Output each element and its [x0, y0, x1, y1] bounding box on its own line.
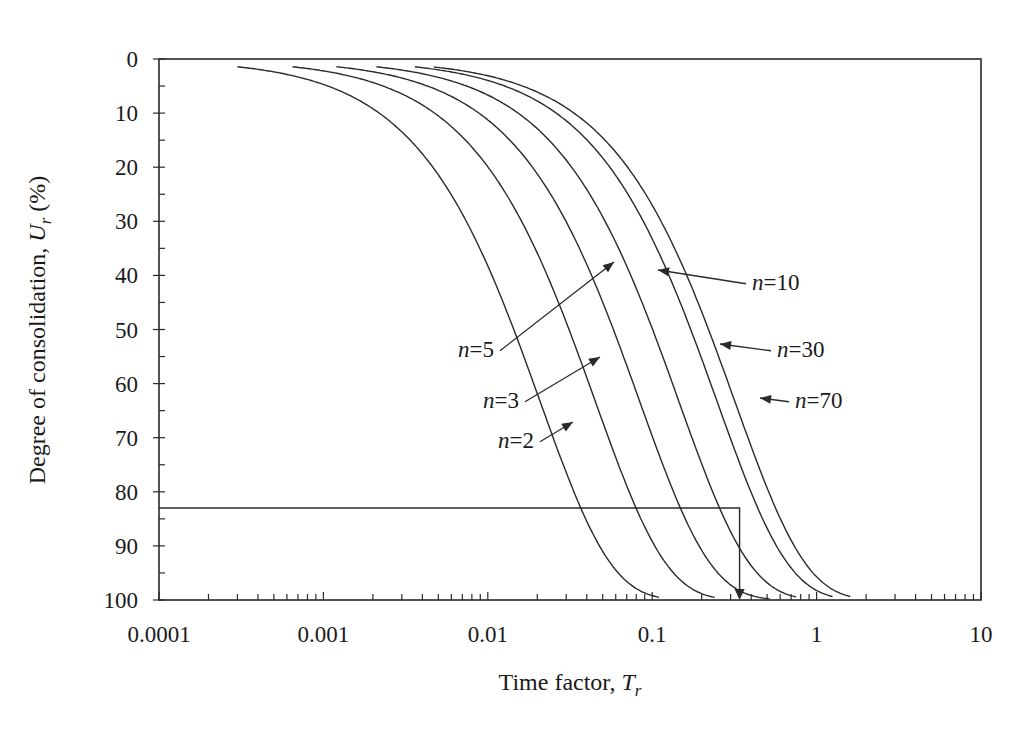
- arrow-head-icon: [760, 395, 771, 404]
- x-tick-label: 0.1: [638, 622, 667, 647]
- series-label: n=70: [795, 388, 842, 413]
- x-axis-title: Time factor, Tr: [499, 669, 642, 700]
- y-tick-label: 0: [127, 47, 139, 72]
- y-tick-label: 70: [115, 426, 138, 451]
- consolidation-chart: n=10n=5n=30n=3n=70n=2 010203040506070809…: [0, 0, 1034, 730]
- curve-n-5: [336, 67, 770, 599]
- arrow-head-icon: [720, 341, 731, 350]
- annotation-arrow-line: [500, 262, 614, 351]
- x-tick-label: 0.0001: [127, 622, 190, 647]
- curve-n-10: [376, 67, 796, 597]
- axis-ticks: [153, 59, 981, 600]
- guide-line: [159, 508, 740, 591]
- y-tick-label: 20: [115, 155, 138, 180]
- series-label: n=5: [458, 337, 494, 362]
- arrow-head-icon: [603, 262, 614, 272]
- arrow-head-icon: [658, 267, 670, 276]
- x-tick-label: 0.01: [468, 622, 508, 647]
- annotation-arrow-line: [525, 357, 600, 402]
- curve-n-30: [415, 67, 833, 597]
- series-label: n=30: [777, 337, 824, 362]
- curve-n-2: [237, 67, 659, 598]
- curve-n-3: [293, 67, 715, 598]
- y-tick-label: 90: [115, 534, 138, 559]
- curve-n-70: [434, 67, 850, 597]
- x-tick-label: 10: [970, 622, 993, 647]
- series-label: n=2: [498, 428, 534, 453]
- x-tick-label: 1: [811, 622, 823, 647]
- y-tick-label: 40: [115, 263, 138, 288]
- y-tick-label: 80: [115, 480, 138, 505]
- y-tick-label: 60: [115, 372, 138, 397]
- plot-frame: [159, 59, 981, 600]
- series-label: n=3: [483, 388, 519, 413]
- y-axis-title: Degree of consolidation, Ur (%): [24, 176, 55, 485]
- x-tick-labels: 0.00010.0010.010.1110: [127, 622, 992, 647]
- curves: [237, 67, 850, 599]
- guide-lines: [159, 508, 745, 600]
- y-tick-label: 50: [115, 318, 138, 343]
- arrow-head-icon: [588, 357, 600, 367]
- y-tick-label: 100: [104, 588, 139, 613]
- x-tick-label: 0.001: [298, 622, 350, 647]
- y-tick-labels: 0102030405060708090100: [104, 47, 139, 613]
- series-label: n=10: [752, 270, 799, 295]
- arrow-head-icon: [561, 422, 573, 432]
- arrow-down-icon: [735, 589, 745, 600]
- y-tick-label: 30: [115, 209, 138, 234]
- y-tick-label: 10: [115, 101, 138, 126]
- annotations: n=10n=5n=30n=3n=70n=2: [458, 262, 842, 453]
